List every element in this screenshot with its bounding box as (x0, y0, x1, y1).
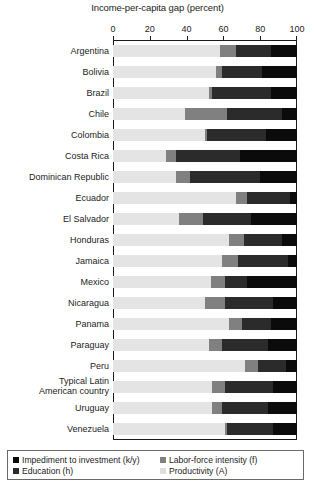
bar-segment-ky (266, 129, 297, 141)
plot-area (113, 40, 297, 440)
bar-segment-A (113, 255, 222, 267)
x-tick-label: 20 (145, 24, 155, 34)
bar-segment-A (113, 318, 229, 330)
bar-segment-h (242, 318, 271, 330)
category-label: Argentina (3, 46, 109, 56)
bar-segment-h (212, 87, 271, 99)
bar-segment-h (222, 402, 268, 414)
bar-row (113, 234, 297, 246)
category-label: Peru (3, 361, 109, 371)
bar-row (113, 402, 297, 414)
bar-segment-A (113, 108, 185, 120)
bar-row (113, 108, 297, 120)
bar-segment-ky (273, 381, 297, 393)
category-label: Venezuela (3, 424, 109, 434)
bar-segment-ky (251, 213, 297, 225)
category-label: Chile (3, 109, 109, 119)
bar-segment-ky (282, 108, 297, 120)
bar-segment-A (113, 423, 225, 435)
bar-segment-f (222, 255, 239, 267)
bar-segment-h (207, 129, 266, 141)
bar-segment-h (236, 45, 271, 57)
bar-segment-h (247, 192, 289, 204)
bar-segment-A (113, 381, 212, 393)
legend-item[interactable]: Labor-force intensity (f) (160, 455, 257, 465)
bar-segment-h (258, 360, 286, 372)
bar-segment-ky (286, 360, 297, 372)
bar-segment-A (113, 129, 205, 141)
bar-segment-ky (282, 234, 297, 246)
bar-segment-f (220, 45, 237, 57)
category-label: Brazil (3, 88, 109, 98)
bar-segment-A (113, 171, 176, 183)
bar-segment-h (203, 213, 251, 225)
bar-segment-ky (273, 297, 297, 309)
x-tick-label: 80 (255, 24, 265, 34)
bar-row (113, 150, 297, 162)
bar-segment-A (113, 339, 209, 351)
category-label: El Salvador (3, 214, 109, 224)
bar-segment-A (113, 297, 205, 309)
legend-label: Labor-force intensity (f) (169, 455, 257, 465)
bar-row (113, 360, 297, 372)
bar-row (113, 66, 297, 78)
bar-segment-f (185, 108, 227, 120)
bar-segment-h (222, 339, 268, 351)
bar-segment-h (225, 276, 247, 288)
bar-segment-A (113, 234, 229, 246)
legend-label: Impediment to investment (k/y) (22, 455, 140, 465)
bar-segment-ky (271, 45, 297, 57)
bar-segment-ky (273, 423, 297, 435)
bar-segment-f (245, 360, 258, 372)
bar-row (113, 129, 297, 141)
bar-segment-A (113, 192, 236, 204)
bar-row (113, 276, 297, 288)
bar-segment-h (227, 423, 273, 435)
x-axis: 020406080100 (113, 24, 297, 40)
bar-segment-f (176, 171, 191, 183)
legend-swatch-icon (160, 457, 166, 463)
bar-segment-f (212, 381, 225, 393)
legend-item[interactable]: Productivity (A) (160, 466, 227, 476)
bar-row (113, 423, 297, 435)
bar-row (113, 87, 297, 99)
legend-swatch-icon (13, 457, 19, 463)
bar-segment-f (209, 339, 222, 351)
legend-item[interactable]: Education (h) (13, 466, 73, 476)
category-axis-labels: ArgentinaBoliviaBrazilChileColombiaCosta… (0, 40, 109, 440)
bar-segment-A (113, 213, 179, 225)
bar-segment-h (176, 150, 240, 162)
category-label: Paraguay (3, 340, 109, 350)
bar-segment-ky (271, 318, 297, 330)
bar-segment-ky (262, 66, 297, 78)
bar-segment-A (113, 150, 166, 162)
bar-row (113, 171, 297, 183)
legend-item[interactable]: Impediment to investment (k/y) (13, 455, 140, 465)
chart-legend: Impediment to investment (k/y)Education … (7, 450, 304, 480)
bar-segment-f (166, 150, 175, 162)
x-tick-label: 40 (182, 24, 192, 34)
bar-segment-h (225, 381, 273, 393)
bar-segment-ky (288, 255, 297, 267)
category-label: Ecuador (3, 193, 109, 203)
bar-segment-f (212, 402, 221, 414)
bar-row (113, 213, 297, 225)
bar-segment-ky (260, 171, 297, 183)
bar-segment-f (179, 213, 203, 225)
bar-segment-ky (290, 192, 297, 204)
bar-row (113, 297, 297, 309)
chart-title: Income-per-capita gap (percent) (0, 2, 315, 13)
bar-row (113, 318, 297, 330)
bar-segment-A (113, 402, 212, 414)
category-label: Honduras (3, 235, 109, 245)
x-tick-label: 100 (289, 24, 304, 34)
bar-segment-h (244, 234, 283, 246)
bar-segment-f (229, 318, 242, 330)
legend-label: Productivity (A) (169, 466, 227, 476)
category-label: Panama (3, 319, 109, 329)
bar-segment-ky (268, 339, 297, 351)
category-label: Jamaica (3, 256, 109, 266)
bar-segment-ky (247, 276, 297, 288)
bar-row (113, 339, 297, 351)
bar-row (113, 381, 297, 393)
